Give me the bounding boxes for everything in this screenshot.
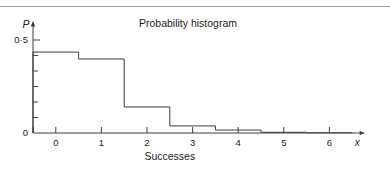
x-axis-arrowhead [360, 131, 365, 135]
y-tick-label-0: 0 [23, 127, 28, 138]
x-tick-label-2: 2 [144, 137, 149, 148]
top-divider-rule [0, 6, 390, 7]
histogram-bar-1 [79, 59, 125, 133]
x-tick-label-6: 6 [327, 137, 332, 148]
x-tick-label-3: 3 [190, 137, 195, 148]
x-tick-label-1: 1 [99, 137, 104, 148]
y-tick-label-0.5: 0·5 [14, 34, 28, 45]
x-tick-label-5: 5 [281, 137, 286, 148]
histogram-bars-outline [33, 52, 352, 133]
histogram-bar-0 [33, 52, 79, 133]
y-axis-label: P [22, 18, 29, 30]
x-tick-label-4: 4 [236, 137, 241, 148]
y-axis-arrowhead [31, 21, 35, 27]
histogram-chart: 0·50P0123456xProbability histogramSucces… [0, 0, 390, 174]
probability-histogram-figure: 0·50P0123456xProbability histogramSucces… [0, 0, 390, 174]
chart-title: Probability histogram [139, 17, 237, 29]
x-axis-variable-label: x [354, 137, 361, 148]
x-axis-label: Successes [144, 150, 195, 162]
x-tick-label-0: 0 [53, 137, 58, 148]
